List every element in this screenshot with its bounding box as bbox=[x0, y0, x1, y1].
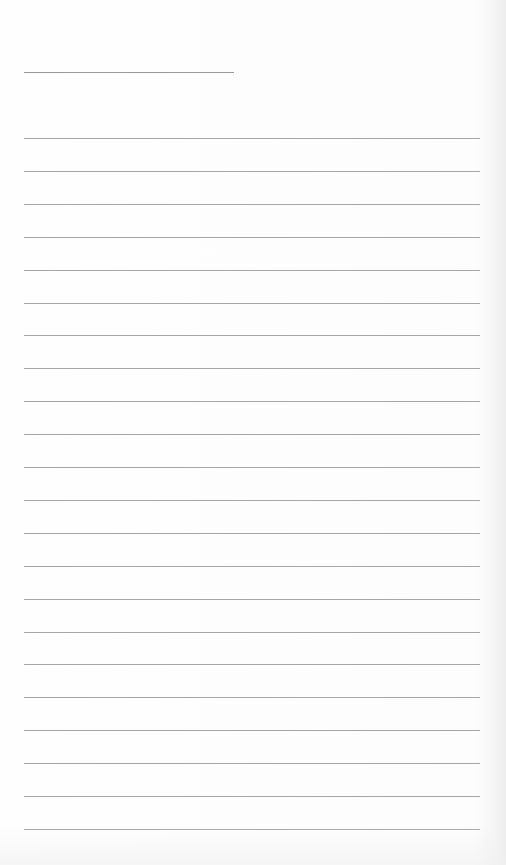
writing-line[interactable] bbox=[24, 237, 480, 238]
writing-line[interactable] bbox=[24, 664, 480, 665]
writing-line[interactable] bbox=[24, 796, 480, 797]
writing-line[interactable] bbox=[24, 401, 480, 402]
writing-line[interactable] bbox=[24, 632, 480, 633]
writing-line[interactable] bbox=[24, 500, 480, 501]
writing-line[interactable] bbox=[24, 204, 480, 205]
writing-line[interactable] bbox=[24, 467, 480, 468]
writing-line[interactable] bbox=[24, 303, 480, 304]
writing-line[interactable] bbox=[24, 697, 480, 698]
writing-line[interactable] bbox=[24, 533, 480, 534]
writing-line[interactable] bbox=[24, 434, 480, 435]
writing-line[interactable] bbox=[24, 270, 480, 271]
writing-line[interactable] bbox=[24, 730, 480, 731]
writing-line[interactable] bbox=[24, 763, 480, 764]
writing-line[interactable] bbox=[24, 335, 480, 336]
writing-line[interactable] bbox=[24, 599, 480, 600]
writing-line[interactable] bbox=[24, 138, 480, 139]
page-text bbox=[0, 0, 1, 1]
writing-line[interactable] bbox=[24, 829, 480, 830]
lined-paper-sheet bbox=[0, 0, 506, 865]
writing-line[interactable] bbox=[24, 368, 480, 369]
writing-line[interactable] bbox=[24, 171, 480, 172]
title-line[interactable] bbox=[24, 72, 234, 73]
writing-line[interactable] bbox=[24, 566, 480, 567]
